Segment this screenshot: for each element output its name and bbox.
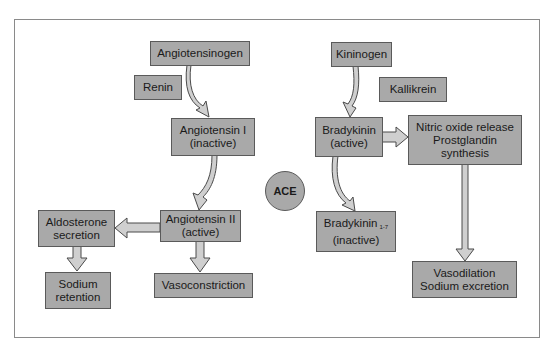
node-kininogen: Kininogen (331, 42, 392, 67)
node-vasoconstriction-label: Vasoconstriction (162, 279, 246, 292)
node-vasodilation: Vasodilation Sodium excretion (412, 261, 517, 298)
arrow-angiotensin-2-to-vasoconstriction (190, 241, 210, 272)
node-kallikrein: Kallikrein (379, 77, 447, 102)
node-bradykinin-active-line2: (active) (330, 137, 368, 150)
node-angiotensinogen: Angiotensinogen (150, 41, 250, 66)
node-aldosterone-secretion: Aldosterone secretion (38, 210, 115, 247)
arrow-bradykinin-to-nitric-oxide (382, 127, 408, 147)
node-nitric-oxide-line1: Nitric oxide release (416, 121, 514, 134)
arrow-aldosterone-to-sodium-retention (67, 246, 87, 271)
node-bradykinin-1-7-line2: (inactive) (333, 234, 380, 247)
node-renin-label: Renin (143, 81, 173, 94)
node-kallikrein-label: Kallikrein (390, 83, 437, 96)
node-angiotensin-1-line1: Angiotensin I (180, 124, 247, 137)
node-sodium-retention-line2: retention (56, 291, 101, 304)
arrow-kininogen-to-bradykinin (343, 66, 359, 117)
node-aldosterone-line2: secretion (53, 229, 100, 242)
arrow-angiotensinogen-to-angiotensin-1 (186, 65, 209, 117)
node-bradykinin-1-7-subscript: 1-7 (380, 224, 389, 230)
node-nitric-oxide-line3: synthesis (441, 147, 489, 160)
node-bradykinin-active: Bradykinin (active) (315, 117, 383, 157)
node-vasoconstriction: Vasoconstriction (154, 273, 253, 298)
node-angiotensin-2-line2: (active) (182, 226, 220, 239)
node-angiotensinogen-label: Angiotensinogen (157, 47, 243, 60)
arrow-angiotensin-1-to-angiotensin-2 (193, 155, 217, 210)
node-angiotensin-1-line2: (inactive) (190, 137, 237, 150)
node-angiotensin-1: Angiotensin I (inactive) (171, 118, 255, 156)
arrow-nitric-oxide-to-vasodilation (456, 164, 474, 261)
node-nitric-oxide-release: Nitric oxide release Prostglandin synthe… (408, 115, 522, 165)
node-aldosterone-line1: Aldosterone (46, 216, 107, 229)
arrow-bradykinin-to-bradykinin-1-7 (332, 156, 355, 211)
node-sodium-retention-line1: Sodium (59, 278, 98, 291)
node-bradykinin-1-7-line1: Bradykinin1-7 (324, 217, 388, 234)
ace-enzyme-circle: ACE (265, 171, 305, 211)
ace-label: ACE (273, 185, 296, 197)
node-angiotensin-2: Angiotensin II (active) (160, 210, 241, 242)
node-nitric-oxide-line2: Prostglandin (433, 134, 497, 147)
node-bradykinin-1-7: Bradykinin1-7 (inactive) (316, 211, 396, 252)
node-angiotensin-2-line1: Angiotensin II (166, 213, 236, 226)
node-renin: Renin (134, 75, 182, 100)
node-bradykinin-active-line1: Bradykinin (322, 124, 376, 137)
node-kininogen-label: Kininogen (336, 48, 387, 61)
node-bradykinin-1-7-label: Bradykinin (324, 217, 378, 229)
arrow-angiotensin-2-to-aldosterone (115, 218, 160, 238)
node-vasodilation-line2: Sodium excretion (420, 280, 509, 293)
node-sodium-retention: Sodium retention (45, 272, 111, 309)
node-vasodilation-line1: Vasodilation (434, 267, 496, 280)
